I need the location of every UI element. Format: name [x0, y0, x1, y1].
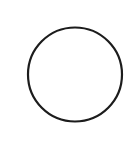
canvas	[0, 0, 133, 141]
circle-outline-icon	[0, 0, 133, 141]
circle-shape	[28, 28, 122, 122]
